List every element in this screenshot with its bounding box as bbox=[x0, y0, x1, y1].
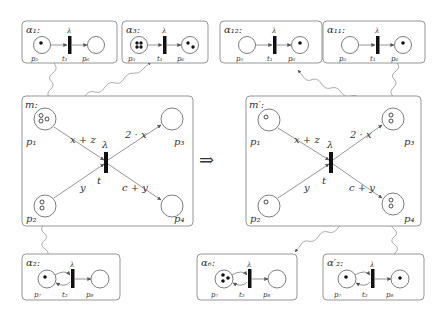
place-in-label: p₅ bbox=[31, 55, 38, 63]
token bbox=[398, 276, 402, 280]
subnet-alpha1: α₁: λ t₁ p₅ p₆ bbox=[22, 21, 117, 63]
arc-label-t-p4: c + y bbox=[122, 182, 148, 193]
subnet-label: α₆: bbox=[201, 257, 215, 268]
place-out-label: p₆ bbox=[82, 55, 89, 63]
place-p5 bbox=[34, 37, 51, 54]
token bbox=[389, 113, 393, 117]
transition-name: t₁ bbox=[370, 55, 376, 63]
transition-lambda: λ bbox=[66, 27, 71, 35]
place-label-p1: p₁ bbox=[26, 136, 36, 147]
transition-name: t₂ bbox=[239, 291, 245, 299]
transition-name: t₂ bbox=[62, 291, 68, 299]
transition-name: t₂ bbox=[362, 291, 368, 299]
transition-lambda: λ bbox=[369, 261, 374, 269]
arc-label-t-p4: c + y bbox=[349, 182, 375, 193]
place-in-label: p₅ bbox=[236, 55, 243, 63]
token bbox=[40, 206, 44, 210]
subnet-label: α₃: bbox=[126, 24, 140, 35]
token bbox=[186, 41, 189, 44]
place-in-label: p₇ bbox=[34, 291, 41, 299]
place-out-label: p₆ bbox=[177, 55, 184, 63]
place-p3 bbox=[382, 108, 404, 130]
token bbox=[39, 41, 43, 45]
transition-t1 bbox=[376, 36, 380, 54]
place-p4 bbox=[382, 193, 404, 215]
token bbox=[264, 200, 268, 204]
place-label-p1: p₁ bbox=[250, 136, 260, 147]
token bbox=[221, 273, 225, 277]
subnet-label: α₁: bbox=[26, 24, 40, 35]
transition-name: t₁ bbox=[62, 55, 68, 63]
place-in-label: p₅ bbox=[339, 55, 346, 63]
place-label-p2: p₂ bbox=[26, 213, 36, 224]
place-p2 bbox=[34, 195, 56, 217]
subnet-label: α′₂: bbox=[327, 257, 343, 268]
petri-net-diagram: α₁: λ t₁ p₅ p₆ α₃: λ t₁ p₅ p₆ α₁₂: bbox=[0, 0, 441, 317]
place-label-p3: p₃ bbox=[404, 136, 414, 147]
subnet-alpha3: α₃: λ t₁ p₅ p₆ bbox=[122, 21, 208, 63]
token bbox=[139, 45, 142, 48]
token bbox=[43, 275, 47, 279]
transition-name: t₁ bbox=[157, 55, 163, 63]
token bbox=[40, 200, 44, 204]
place-label-p3: p₃ bbox=[174, 136, 184, 147]
subnet-label: α₁₂: bbox=[224, 24, 242, 35]
place-label-p4: p₄ bbox=[404, 213, 414, 224]
subnet-label: α₂: bbox=[26, 257, 40, 268]
transition-t bbox=[104, 152, 108, 173]
token bbox=[45, 117, 49, 121]
transition-lambda: λ bbox=[326, 139, 333, 150]
place-p6 bbox=[182, 37, 199, 54]
main-net-m: m: p₁ p₂ p₃ p₄ λ t x + z y 2 · x c + y bbox=[22, 96, 193, 226]
place-p6 bbox=[88, 37, 105, 54]
place-out-label: p₈ bbox=[263, 291, 270, 299]
place-in-label: p₇ bbox=[211, 291, 218, 299]
place-p7 bbox=[338, 270, 356, 288]
place-p8 bbox=[91, 270, 109, 288]
arc-label-p2-t: y bbox=[303, 182, 310, 193]
place-out-label: p₈ bbox=[386, 291, 393, 299]
place-p7 bbox=[215, 270, 233, 288]
token bbox=[389, 198, 393, 202]
arc-label-p1-t: x + z bbox=[294, 134, 320, 145]
subnet-label: α₁₁: bbox=[327, 24, 345, 35]
subnet-alpha6: α₆: λ t₂ p₇ p₈ bbox=[197, 254, 297, 300]
arc-label-p1-t: x + z bbox=[70, 134, 96, 145]
token bbox=[221, 279, 225, 283]
place-p7 bbox=[38, 270, 56, 288]
transition-lambda: λ bbox=[161, 27, 166, 35]
main-net-m-prime: m′: p₁ p₂ p₃ p₄ λ t x + z y 2 · x c + y bbox=[246, 96, 421, 226]
transition-lambda: λ bbox=[246, 261, 251, 269]
place-out-label: p₆ bbox=[391, 55, 398, 63]
transition-t2 bbox=[248, 269, 252, 288]
subnet-alpha11: α₁₁: λ t₁ p₅ p₆ bbox=[323, 21, 425, 63]
token bbox=[39, 114, 43, 118]
place-out-label: p₈ bbox=[86, 291, 93, 299]
arc-label-t-p3: 2 · x bbox=[349, 129, 372, 140]
arc-label-t-p3: 2 · x bbox=[124, 129, 147, 140]
subnet-alpha2-prime: α′₂: λ t₂ p₇ p₈ bbox=[323, 254, 424, 300]
place-p6 bbox=[395, 37, 412, 54]
token bbox=[226, 276, 230, 280]
place-p2 bbox=[258, 195, 280, 217]
net-label: m′: bbox=[249, 99, 264, 110]
transition-t2 bbox=[71, 269, 75, 288]
token bbox=[139, 41, 142, 44]
transition-t1 bbox=[163, 36, 167, 54]
place-p3 bbox=[161, 108, 183, 130]
transition-lambda: λ bbox=[101, 139, 108, 150]
transition-lambda: λ bbox=[374, 27, 379, 35]
transition-t bbox=[329, 152, 333, 173]
transition-lambda: λ bbox=[271, 27, 276, 35]
net-label: m: bbox=[25, 99, 38, 110]
token bbox=[389, 119, 393, 123]
token bbox=[298, 41, 302, 45]
subnet-alpha12: α₁₂: λ t₁ p₅ p₆ bbox=[220, 21, 322, 63]
place-in-label: p₅ bbox=[128, 55, 135, 63]
place-p8 bbox=[268, 270, 286, 288]
token bbox=[135, 41, 138, 44]
token bbox=[191, 45, 194, 48]
token bbox=[264, 115, 268, 119]
place-out-label: p₆ bbox=[288, 55, 295, 63]
transition-lambda: λ bbox=[69, 261, 74, 269]
